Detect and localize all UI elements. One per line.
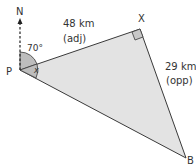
side-xb-note: (opp) (166, 75, 193, 86)
diagram-canvas: N 70° x P X B 48 km (adj) 29 km (opp) (0, 0, 196, 164)
north-label: N (16, 6, 23, 17)
point-b-label: B (187, 155, 194, 164)
north-arrow-icon (18, 18, 23, 24)
side-px-note: (adj) (63, 33, 86, 44)
side-xb-value: 29 km (165, 61, 196, 72)
triangle-pxb (20, 29, 186, 158)
bearing-triangle-diagram: N 70° x P X B 48 km (adj) 29 km (opp) (0, 0, 196, 164)
angle-bearing-label: 70° (27, 43, 43, 53)
side-px-value: 48 km (63, 18, 94, 29)
point-x-label: X (138, 13, 145, 24)
point-p-label: P (6, 66, 12, 77)
angle-x-label: x (33, 66, 39, 75)
